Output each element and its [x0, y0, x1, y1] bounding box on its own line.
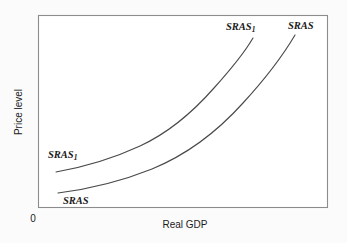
- x-axis-label: Real GDP: [162, 219, 207, 230]
- sras-label-top: SRAS: [288, 20, 314, 31]
- y-axis-label: Price level: [13, 89, 24, 135]
- sras-label-left: SRAS: [63, 195, 89, 206]
- origin-label: 0: [30, 213, 36, 224]
- chart-canvas: SRAS1 SRAS SRAS1 SRAS Price level Real G…: [0, 0, 347, 243]
- sras-shift-figure: SRAS1 SRAS SRAS1 SRAS Price level Real G…: [0, 0, 347, 243]
- plot-frame: [39, 16, 328, 208]
